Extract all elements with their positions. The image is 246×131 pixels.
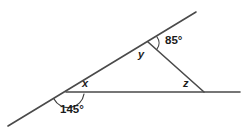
angle-arc-85 (157, 37, 159, 49)
segment-bc (148, 42, 204, 92)
angle-label-85: 85° (165, 35, 182, 47)
geometry-diagram: x y z 85° 145° (0, 0, 246, 131)
angle-label-y: y (138, 49, 144, 60)
transversal-line (8, 12, 196, 126)
angle-label-x: x (82, 78, 88, 89)
angle-label-z: z (183, 78, 189, 89)
angle-label-145: 145° (60, 104, 84, 116)
geometry-canvas (0, 0, 246, 131)
